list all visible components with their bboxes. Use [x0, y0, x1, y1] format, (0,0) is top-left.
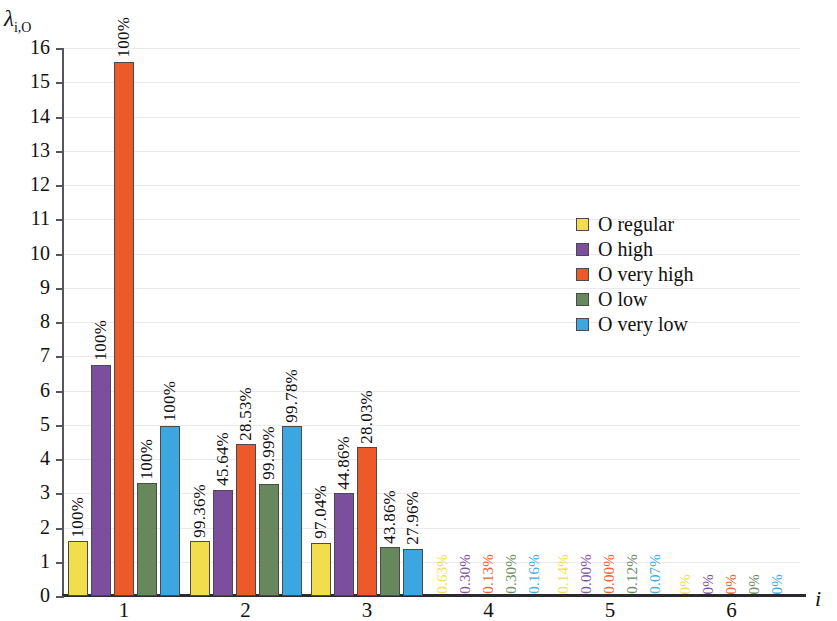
- y-axis-tick-mark: [56, 117, 64, 119]
- bar-value-label: 0%: [700, 574, 717, 594]
- y-axis-tick-label: 4: [8, 448, 50, 468]
- y-axis-tick-label: 16: [8, 37, 50, 57]
- bar-value-label: 0.63%: [434, 554, 451, 594]
- x-axis-tick-label: 6: [702, 598, 762, 621]
- gridline: [62, 356, 800, 357]
- y-axis-tick-mark: [56, 322, 64, 324]
- legend-item: O high: [576, 237, 694, 262]
- y-axis-tick-mark: [56, 288, 64, 290]
- y-axis-tick-mark: [56, 425, 64, 427]
- bar-value-label: 0.13%: [480, 554, 497, 594]
- bar: [311, 543, 331, 596]
- x-axis-tick-label: 3: [337, 598, 397, 621]
- bar-value-label: 0%: [746, 574, 763, 594]
- y-axis-tick-label: 12: [8, 174, 50, 194]
- bar-value-label: 44.86%: [335, 436, 352, 490]
- x-axis-tick-label: 1: [94, 598, 154, 621]
- y-axis-tick-mark: [56, 596, 64, 598]
- y-axis-title: λi,O: [4, 6, 31, 36]
- bar: [68, 541, 88, 596]
- bar: [137, 483, 157, 596]
- legend-item-label: O low: [598, 287, 647, 312]
- gridline: [62, 82, 800, 83]
- bar-value-label: 0.00%: [601, 554, 618, 594]
- legend-item-label: O regular: [598, 212, 674, 237]
- bar: [190, 541, 210, 596]
- y-axis-title-lambda: λ: [4, 6, 14, 31]
- y-axis-tick-mark: [56, 151, 64, 153]
- bar-value-label: 97.04%: [312, 485, 329, 539]
- legend-item-label: O high: [598, 237, 653, 262]
- bar: [357, 447, 377, 596]
- legend-color-swatch: [576, 318, 589, 331]
- y-axis-tick-label: 3: [8, 482, 50, 502]
- y-axis-tick-mark: [56, 493, 64, 495]
- bar-value-label: 45.64%: [214, 432, 231, 486]
- y-axis-tick-mark: [56, 219, 64, 221]
- bar-value-label: 100%: [69, 497, 86, 537]
- y-axis-tick-label: 8: [8, 311, 50, 331]
- y-axis-tick-label: 2: [8, 517, 50, 537]
- bar: [160, 426, 180, 596]
- y-axis-tick-label: 7: [8, 345, 50, 365]
- legend-item: O very high: [576, 262, 694, 287]
- legend-item-label: O very high: [598, 262, 694, 287]
- y-axis-tick-label: 9: [8, 277, 50, 297]
- bar-value-label: 0.30%: [457, 554, 474, 594]
- gridline: [62, 185, 800, 186]
- bar-value-label: 100%: [138, 439, 155, 479]
- bar-chart: λi,O i 100%100%100%100%100%99.36%45.64%2…: [0, 0, 837, 621]
- x-axis-tick-label: 4: [459, 598, 519, 621]
- gridline: [62, 48, 800, 49]
- y-axis-tick-mark: [56, 82, 64, 84]
- bar-value-label: 0.07%: [647, 554, 664, 594]
- bar: [236, 444, 256, 596]
- bar-value-label: 99.36%: [191, 484, 208, 538]
- bar-value-label: 99.99%: [260, 426, 277, 480]
- legend-color-swatch: [576, 218, 589, 231]
- bar-value-label: 100%: [115, 17, 132, 57]
- y-axis-tick-label: 0: [8, 585, 50, 605]
- y-axis-tick-label: 5: [8, 414, 50, 434]
- bar: [380, 547, 400, 596]
- bar: [114, 62, 134, 596]
- y-axis-tick-mark: [56, 356, 64, 358]
- x-axis-title: i: [815, 586, 821, 612]
- x-axis-tick-label: 5: [580, 598, 640, 621]
- legend-color-swatch: [576, 243, 589, 256]
- y-axis-tick-label: 6: [8, 380, 50, 400]
- y-axis-tick-mark: [56, 254, 64, 256]
- y-axis-tick-label: 10: [8, 243, 50, 263]
- bar: [259, 484, 279, 596]
- bar-value-label: 0.14%: [555, 554, 572, 594]
- legend-color-swatch: [576, 268, 589, 281]
- x-axis-tick-label: 2: [216, 598, 276, 621]
- legend-item: O regular: [576, 212, 694, 237]
- bar-value-label: 0.12%: [624, 554, 641, 594]
- bar: [403, 549, 423, 596]
- bar-value-label: 28.03%: [358, 390, 375, 444]
- bar-value-label: 43.86%: [381, 490, 398, 544]
- y-axis-tick-mark: [56, 185, 64, 187]
- bar-value-label: 0.16%: [526, 554, 543, 594]
- chart-legend: O regularO highO very highO lowO very lo…: [576, 212, 694, 337]
- gridline: [62, 117, 800, 118]
- bar-value-label: 0.00%: [578, 554, 595, 594]
- legend-item: O low: [576, 287, 694, 312]
- gridline: [62, 151, 800, 152]
- bar-value-label: 0%: [723, 574, 740, 594]
- bar-value-label: 27.96%: [404, 491, 421, 545]
- bar: [334, 493, 354, 596]
- bar-value-label: 0%: [677, 574, 694, 594]
- bar: [91, 365, 111, 596]
- legend-item-label: O very low: [598, 312, 688, 337]
- y-axis-tick-label: 14: [8, 106, 50, 126]
- y-axis-tick-label: 1: [8, 551, 50, 571]
- y-axis-title-subscript: i,O: [14, 20, 32, 35]
- bar-value-label: 99.78%: [283, 369, 300, 423]
- y-axis-tick-label: 11: [8, 208, 50, 228]
- bar-value-label: 100%: [161, 381, 178, 421]
- bar-value-label: 0.30%: [503, 554, 520, 594]
- bar: [282, 426, 302, 596]
- y-axis-tick-mark: [56, 459, 64, 461]
